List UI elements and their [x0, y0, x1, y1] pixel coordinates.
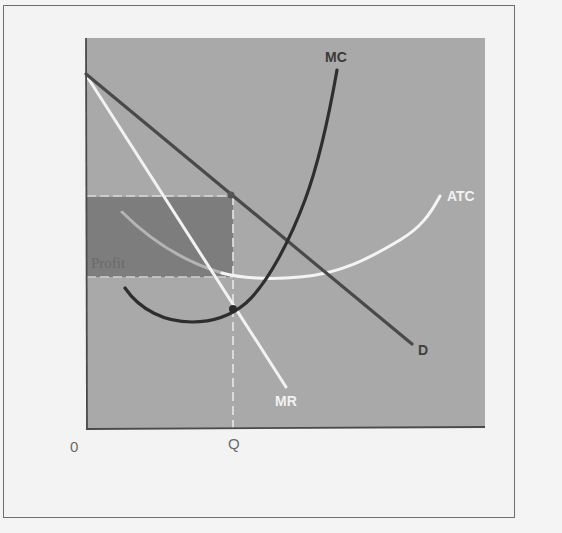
origin-label: 0: [70, 438, 78, 455]
q-tick-label: Q: [228, 435, 240, 452]
demand-label: D: [418, 342, 428, 358]
profit-label: Profit: [91, 255, 126, 271]
mc-label: MC: [325, 49, 347, 65]
atc-label: ATC: [447, 188, 475, 204]
monopoly-diagram: MC ATC D MR Profit 0 Q: [0, 0, 562, 533]
mr-mc-intersection-marker: [229, 305, 237, 313]
y-axis: [86, 38, 87, 430]
price-point-marker: [228, 192, 235, 199]
mr-label: MR: [275, 393, 297, 409]
